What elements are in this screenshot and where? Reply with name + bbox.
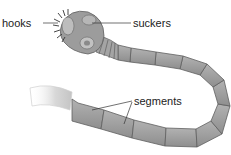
segments-label: segments: [134, 96, 182, 107]
tapeworm-illustration: [0, 0, 231, 155]
hooks-label: hooks: [2, 18, 31, 29]
suckers-label: suckers: [133, 18, 171, 29]
scolex: [53, 9, 104, 54]
segments-leader-1: [92, 101, 132, 110]
tapeworm-diagram: hooks suckers segments: [0, 0, 231, 155]
tail: [30, 86, 72, 110]
